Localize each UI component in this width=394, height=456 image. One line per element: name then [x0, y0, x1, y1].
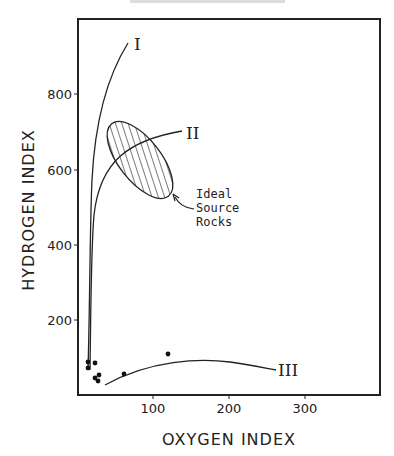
data-points	[86, 352, 171, 384]
label-I: I	[134, 34, 141, 54]
x-tick-200: 200	[217, 401, 242, 416]
curve-type-III	[105, 360, 276, 385]
annotation-arrow	[175, 197, 194, 209]
x-tick-100: 100	[141, 401, 166, 416]
label-II: II	[186, 123, 199, 143]
y-tick-200: 200	[47, 313, 72, 328]
y-tick-600: 600	[47, 163, 72, 178]
ideal-source-rocks-region	[95, 111, 185, 209]
y-tick-800: 800	[47, 87, 72, 102]
van-krevelen-chart: 800 600 400 200 HYDROGEN INDEX 100 200 3…	[0, 0, 394, 456]
x-axis: 100 200 300 OXYGEN INDEX	[141, 395, 318, 449]
arrow-head-icon	[173, 194, 179, 201]
y-tick-400: 400	[47, 238, 72, 253]
y-axis-label: HYDROGEN INDEX	[19, 129, 38, 290]
annotation-line-1: Ideal	[196, 187, 232, 201]
label-III: III	[278, 360, 298, 380]
y-axis: 800 600 400 200 HYDROGEN INDEX	[19, 87, 78, 328]
x-tick-300: 300	[293, 401, 318, 416]
x-axis-label: OXYGEN INDEX	[162, 430, 296, 449]
annotation-line-2: Source	[196, 201, 239, 215]
annotation-line-3: Rocks	[196, 215, 232, 229]
cropped-caption	[130, 0, 285, 3]
curve-type-I	[88, 43, 128, 370]
